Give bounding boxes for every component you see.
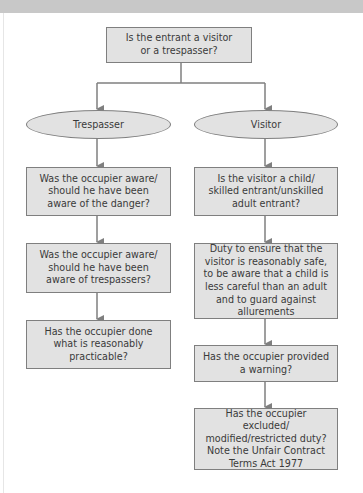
visitor-step-warning: Has the occupier provided a warning? [194,345,338,382]
root-question-box: Is the entrant a visitor or a trespasser… [106,27,252,63]
visitor-step-duty-of-care: Duty to ensure that the visitor is reaso… [194,243,338,319]
visitor-label: Visitor [251,119,281,130]
visitor-branch-node: Visitor [194,110,338,139]
trespasser-step-danger-awareness: Was the occupier aware/ should he have b… [26,167,171,216]
step-text: Duty to ensure that the visitor is reaso… [201,243,331,319]
trespasser-step-reasonably-practicable: Has the occupier done what is reasonably… [26,320,171,369]
step-text: Was the occupier aware/ should he have b… [33,173,164,211]
trespasser-label: Trespasser [73,119,124,130]
root-question-line-1: Is the entrant a visitor [126,32,233,45]
step-text: Is the visitor a child/ skilled entrant/… [201,173,331,211]
root-question-line-2: or a trespasser? [140,45,217,58]
step-text: Has the occupier done what is reasonably… [33,326,164,364]
step-text: Has the occupier excluded/ modified/rest… [201,408,331,471]
visitor-step-entrant-type: Is the visitor a child/ skilled entrant/… [194,167,338,216]
visitor-step-exclusion-of-duty: Has the occupier excluded/ modified/rest… [194,408,338,470]
step-text: Was the occupier aware/ should he have b… [33,249,164,287]
trespasser-branch-node: Trespasser [26,110,171,139]
trespasser-step-trespasser-awareness: Was the occupier aware/ should he have b… [26,243,171,293]
step-text: Has the occupier provided a warning? [201,351,331,376]
